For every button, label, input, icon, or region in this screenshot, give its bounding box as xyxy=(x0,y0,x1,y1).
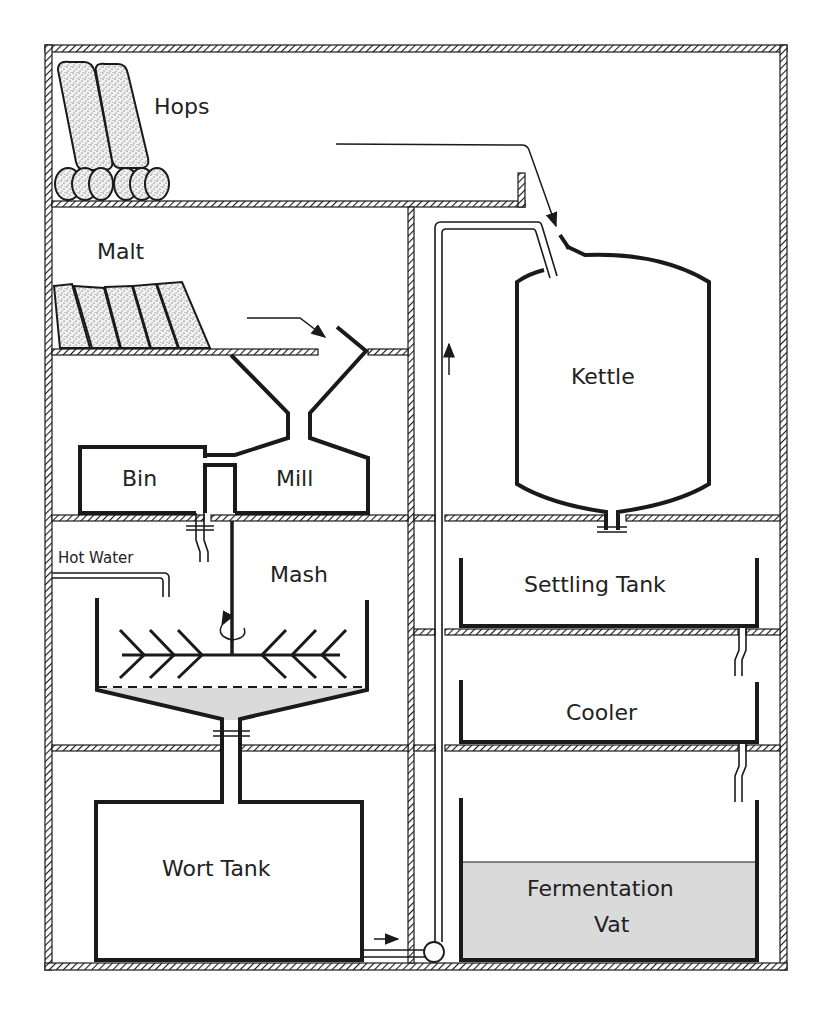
floor-mill-level-left xyxy=(52,515,204,521)
bin-outlet-valve xyxy=(186,526,214,530)
malt-shelf xyxy=(52,349,318,355)
ground-floor xyxy=(45,963,787,970)
kettle-valve xyxy=(597,527,627,532)
mill-label: Mill xyxy=(276,466,313,491)
wort-to-pump-pipe xyxy=(362,950,425,957)
floor-settling-c xyxy=(746,629,780,635)
settling-tank-label: Settling Tank xyxy=(524,572,666,597)
hops-shelf-lip xyxy=(518,173,525,207)
hops-label: Hops xyxy=(154,94,209,119)
bin-label: Bin xyxy=(122,466,157,491)
floor-kettle-level-a xyxy=(414,515,435,521)
mill-body xyxy=(205,465,235,513)
left-wall xyxy=(45,45,52,970)
hops-bales xyxy=(55,62,169,200)
malt-sacks xyxy=(54,282,210,348)
fermentation-vat-label-line2: Vat xyxy=(594,912,630,937)
hot-water-label: Hot Water xyxy=(58,549,134,567)
kettle-hops-chute xyxy=(560,235,568,248)
mash-label: Mash xyxy=(270,562,328,587)
floor-cooler-c xyxy=(746,745,780,751)
malt-shelf-right xyxy=(368,349,408,355)
fermentation-vat-label-line1: Fermentation xyxy=(527,876,674,901)
mash-liquid xyxy=(98,688,365,720)
kettle-label: Kettle xyxy=(571,364,635,389)
malt-flow-arrow xyxy=(247,318,325,337)
brewery-diagram: Hops Malt Mill Bin Hot Water Mash xyxy=(0,0,831,1009)
mash-valve xyxy=(213,731,250,736)
floor-kettle-level-b xyxy=(445,515,605,521)
central-divider-wall xyxy=(408,207,414,963)
right-wall xyxy=(780,45,787,970)
hops-shelf xyxy=(52,201,525,207)
floor-kettle-level-c xyxy=(626,515,780,521)
floor-settling-a xyxy=(414,629,435,635)
pump-icon xyxy=(424,942,444,962)
floor-mash-level-left xyxy=(52,745,222,751)
floor-mash-level-mid xyxy=(240,745,408,751)
roof-wall xyxy=(45,45,787,52)
hot-water-pipe xyxy=(52,573,169,597)
cooler-label: Cooler xyxy=(566,700,638,725)
floor-settling-b xyxy=(445,629,738,635)
floor-cooler-a xyxy=(414,745,435,751)
malt-label: Malt xyxy=(97,239,145,264)
mill-hopper xyxy=(205,355,288,458)
floor-cooler-b xyxy=(445,745,738,751)
wort-tank-label: Wort Tank xyxy=(162,856,271,881)
floor-mill-level-mid xyxy=(211,515,408,521)
